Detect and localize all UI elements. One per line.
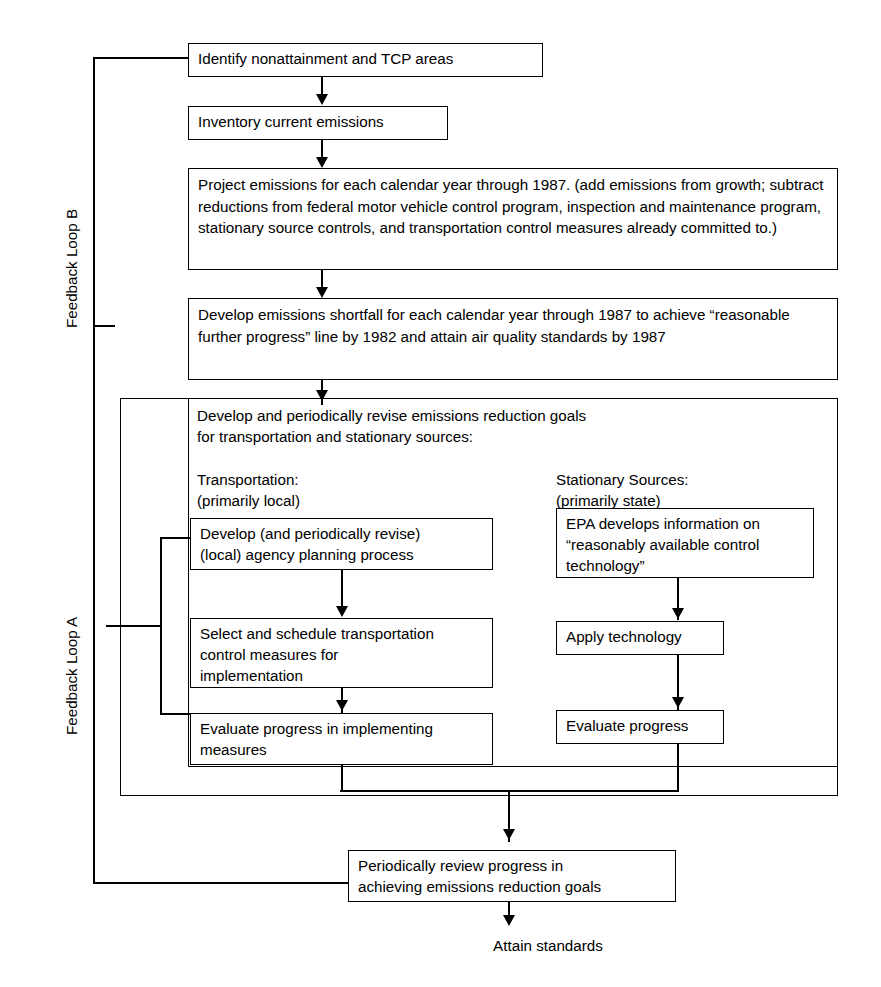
feedback-loop-a-top-line [160,537,190,539]
feedback-loop-b-top-line [93,57,189,59]
feedback-loop-b-bottom-line [93,882,348,884]
arrowhead-to-goals [316,390,328,401]
connector-evaluate-progress-down [677,744,679,791]
node-periodically-review-progress[interactable]: Periodically review progress in achievin… [348,850,676,902]
feedback-loop-b-tick [93,325,115,327]
arrowhead-to-evaluate-implementing [336,700,348,711]
node-project-emissions[interactable]: Project emissions for each calendar year… [188,168,838,270]
node-evaluate-progress[interactable]: Evaluate progress [556,710,724,744]
node-emissions-shortfall[interactable]: Develop emissions shortfall for each cal… [188,298,838,380]
arrowhead-to-apply-technology [672,608,684,619]
arrowhead-to-periodic-review [503,829,515,840]
transportation-heading: Transportation: (primarily local) [197,470,457,512]
node-develop-agency-planning[interactable]: Develop (and periodically revise) (local… [190,518,493,570]
node-evaluate-implementing-measures[interactable]: Evaluate progress in implementing measur… [190,713,493,765]
node-attain-standards: Attain standards [438,936,658,957]
feedback-loop-a-label: Feedback Loop A [63,617,80,735]
arrowhead-to-select [336,606,348,617]
arrowhead-to-attain-standards [503,915,515,926]
feedback-loop-a-bottom-line [160,713,190,715]
goals-inner-container [188,398,838,767]
node-identify-areas[interactable]: Identify nonattainment and TCP areas [188,43,543,77]
feedback-loop-b-vertical-line [93,57,95,883]
flowchart-canvas: Feedback Loop B Feedback Loop A Identify… [0,0,881,987]
feedback-loop-b-label: Feedback Loop B [63,209,80,328]
node-select-schedule-measures[interactable]: Select and schedule transportation contr… [190,618,493,688]
arrowhead-to-shortfall [316,287,328,298]
stationary-heading: Stationary Sources: (primarily state) [556,470,816,512]
arrowhead-to-inventory [316,94,328,105]
node-epa-develops-information[interactable]: EPA develops information on “reasonably … [556,508,814,578]
node-apply-technology[interactable]: Apply technology [556,621,724,655]
goals-heading: Develop and periodically revise emission… [197,406,817,448]
arrowhead-to-project [316,157,328,168]
node-inventory-emissions[interactable]: Inventory current emissions [188,106,448,140]
arrowhead-to-evaluate-progress [672,697,684,708]
connector-evaluate-implementing-down [341,765,343,791]
feedback-loop-a-tick [106,625,162,627]
